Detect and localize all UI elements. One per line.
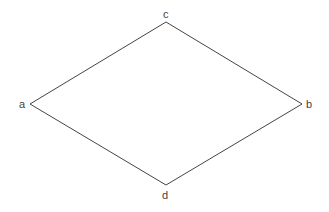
rhombus-diagram: c a b d [0, 0, 329, 212]
vertex-label-a: a [19, 98, 26, 110]
vertex-label-d: d [162, 189, 168, 201]
vertex-label-c: c [163, 8, 169, 20]
rhombus-shape [30, 22, 302, 185]
vertex-label-b: b [306, 98, 312, 110]
